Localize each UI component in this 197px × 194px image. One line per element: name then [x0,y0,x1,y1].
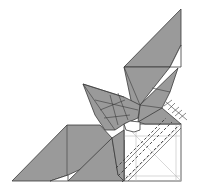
lower-left-flap [12,125,124,181]
white-square-base [124,124,181,181]
origami-diagram [0,0,197,194]
